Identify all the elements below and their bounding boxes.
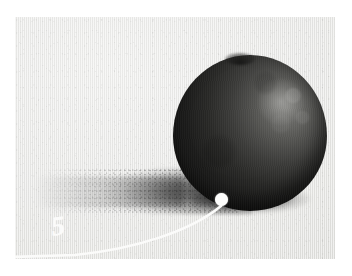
fruit-stem-notch: [225, 53, 255, 65]
figure-plate: 5: [0, 0, 352, 276]
fruit-sphere: [173, 55, 327, 211]
fruit-graphite-texture: [173, 55, 327, 211]
artwork-canvas: 5: [15, 17, 335, 259]
